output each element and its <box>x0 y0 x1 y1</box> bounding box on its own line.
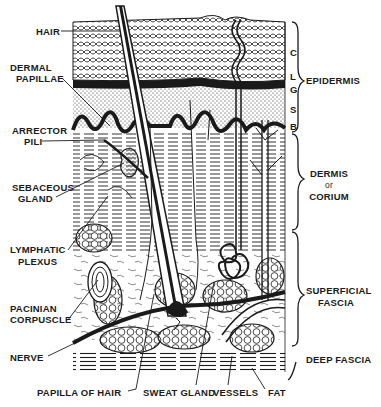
label-sublayer-g: G <box>290 84 298 95</box>
label-sublayer-l: L <box>290 71 296 82</box>
label-sweat-gland: SWEAT GLAND <box>143 387 215 398</box>
label-dermal-papillae-line1: DERMAL <box>10 62 52 73</box>
label-dermis-line2: or <box>306 180 352 191</box>
label-dermal-papillae-line2: PAPILLAE <box>16 73 64 84</box>
label-dermis-line3: CORIUM <box>306 191 352 202</box>
label-nerve: NERVE <box>10 352 44 363</box>
label-epidermis: EPIDERMIS <box>306 75 360 86</box>
skin-cross-section-diagram <box>0 0 381 407</box>
label-hair: HAIR <box>16 26 60 37</box>
label-arrector-pili-line1: ARRECTOR <box>12 125 67 136</box>
stratum-spinosum <box>73 86 285 128</box>
label-sebaceous-gland-line2: GLAND <box>18 193 53 204</box>
label-arrector-pili-line2: PILI <box>24 136 42 147</box>
label-pacinian-corpuscle-line2: CORPUSCLE <box>10 314 71 325</box>
label-sublayer-b: B <box>290 121 297 132</box>
label-fat: FAT <box>268 387 286 398</box>
label-sublayer-s: S <box>290 104 297 115</box>
label-deep-fascia: DEEP FASCIA <box>306 354 371 365</box>
label-dermis-line1: DERMIS <box>306 168 352 179</box>
label-vessels: VESSELS <box>213 387 258 398</box>
label-superficial-fascia-line2: FASCIA <box>318 297 354 308</box>
label-lymphatic-plexus-line1: LYMPHATIC <box>10 244 66 255</box>
pacinian-corpuscle <box>88 262 112 302</box>
label-sublayer-c: C <box>290 47 297 58</box>
stratum-corneum <box>73 15 285 81</box>
label-sebaceous-gland-line1: SEBACEOUS <box>12 182 74 193</box>
label-lymphatic-plexus-line2: PLEXUS <box>18 256 57 267</box>
label-papilla-of-hair: PAPILLA OF HAIR <box>37 387 121 398</box>
label-superficial-fascia-line1: SUPERFICIAL <box>306 285 372 296</box>
label-pacinian-corpuscle-line1: PACINIAN <box>10 303 57 314</box>
deep-fascia-layer <box>73 352 285 372</box>
